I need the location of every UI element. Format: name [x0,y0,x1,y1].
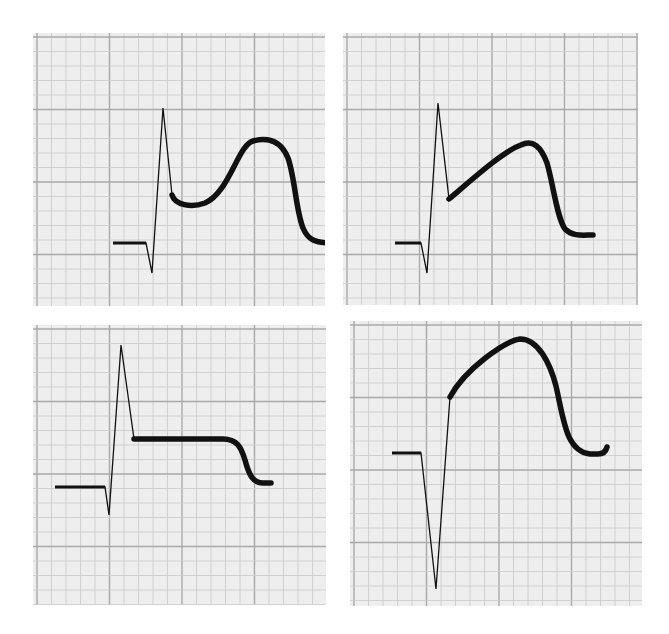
st-segment-trace [450,339,607,454]
st-segment-trace [172,140,325,243]
qrs-complex-trace [395,103,449,273]
ecg-panel-bottom-right [350,321,642,606]
ecg-grid [33,325,326,605]
ecg-grid [343,33,638,305]
qrs-complex-trace [55,345,134,515]
ecg-grid [33,33,325,306]
st-segment-trace [134,439,271,483]
ecg-grid [350,321,642,606]
ecg-panel-bottom-left [33,325,326,605]
ecg-panel-top-right [343,33,638,305]
qrs-complex-trace [113,108,172,273]
ecg-panel-top-left [33,33,325,306]
